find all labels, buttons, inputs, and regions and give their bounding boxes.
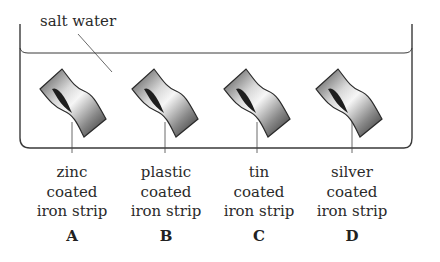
strip-c-caption: tin coated iron strip: [219, 163, 299, 222]
strip-b-caption: plastic coated iron strip: [126, 163, 206, 222]
water-surface: [20, 48, 412, 53]
strip-a-caption: zinc coated iron strip: [32, 163, 112, 222]
beaker: [20, 24, 412, 148]
strip-d-letter: D: [332, 227, 372, 245]
salt-water-label: salt water: [40, 12, 116, 30]
strip-a-letter: A: [52, 227, 92, 245]
strip-c-letter: C: [239, 227, 279, 245]
corrosion-experiment-diagram: salt water zinc coated iron strip plasti…: [0, 0, 440, 262]
strip-d: [316, 69, 382, 137]
strip-d-caption: silver coated iron strip: [312, 163, 392, 222]
strip-b-letter: B: [146, 227, 186, 245]
beaker-illustration: [0, 0, 440, 262]
strip-a: [40, 69, 106, 137]
